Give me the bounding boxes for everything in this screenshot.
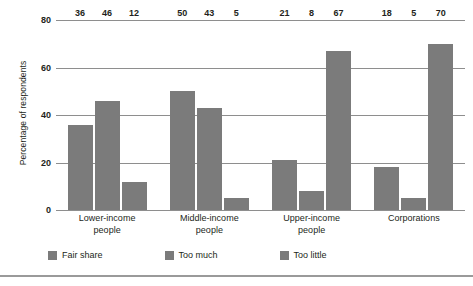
bar-value: 8 (309, 9, 314, 18)
x-axis-label-line2: people (56, 225, 158, 237)
legend-swatch-icon (165, 251, 174, 260)
bar-fair-share[interactable] (374, 167, 399, 210)
bar-fair-share[interactable] (272, 160, 297, 210)
legend-swatch-icon (280, 251, 289, 260)
x-axis-label-line2: people (158, 225, 260, 237)
bar-slot: 8 (299, 20, 324, 210)
bar-slot: 46 (95, 20, 120, 210)
bar-group-upper-income-people: 21 8 67 (261, 20, 363, 210)
y-tick-label-60: 60 (41, 63, 51, 73)
x-axis-label-line1: Lower-income (56, 213, 158, 225)
x-axis-label-corporations: Corporations (363, 213, 465, 236)
legend-item-too-little[interactable]: Too little (280, 250, 327, 260)
bar-slot: 67 (326, 20, 351, 210)
y-tick-label-0: 0 (46, 205, 51, 215)
legend-label: Fair share (62, 250, 103, 260)
y-tick-label-80: 80 (41, 15, 51, 25)
x-axis-label-upper-income-people: Upper-income people (261, 213, 363, 236)
bar-fair-share[interactable] (170, 91, 195, 210)
legend-label: Too little (294, 250, 327, 260)
bar-too-little[interactable] (326, 51, 351, 210)
x-axis-label-line1: Corporations (363, 213, 465, 225)
bar-too-much[interactable] (197, 108, 222, 210)
bar-slot: 43 (197, 20, 222, 210)
bar-slot: 70 (428, 20, 453, 210)
bar-value: 70 (436, 9, 446, 18)
legend-label: Too much (179, 250, 218, 260)
bar-chart: Percentage of respondents 80 60 40 20 0 … (0, 0, 473, 286)
bar-value: 12 (129, 9, 139, 18)
bar-value: 18 (382, 9, 392, 18)
x-axis-label-middle-income-people: Middle-income people (158, 213, 260, 236)
x-axis-labels: Lower-income people Middle-income people… (56, 213, 465, 236)
bar-too-little[interactable] (224, 198, 249, 210)
bar-slot: 36 (68, 20, 93, 210)
x-axis-label-line2: people (261, 225, 363, 237)
bar-too-little[interactable] (428, 44, 453, 210)
bar-too-much[interactable] (95, 101, 120, 210)
bar-groups: 36 46 12 50 (56, 20, 465, 210)
plot-area: 80 60 40 20 0 36 46 (56, 20, 465, 210)
x-axis-label-line1: Middle-income (158, 213, 260, 225)
bar-too-much[interactable] (299, 191, 324, 210)
y-tick-label-20: 20 (41, 158, 51, 168)
bar-slot: 50 (170, 20, 195, 210)
bar-group-middle-income-people: 50 43 5 (158, 20, 260, 210)
bar-slot: 12 (122, 20, 147, 210)
legend-swatch-icon (48, 251, 57, 260)
bar-value: 5 (411, 9, 416, 18)
bar-value: 21 (280, 9, 290, 18)
legend-item-too-much[interactable]: Too much (165, 250, 218, 260)
y-axis-title: Percentage of respondents (18, 28, 28, 198)
bar-value: 36 (75, 9, 85, 18)
bar-slot: 21 (272, 20, 297, 210)
bar-value: 5 (234, 9, 239, 18)
x-axis-label-lower-income-people: Lower-income people (56, 213, 158, 236)
bar-slot: 5 (401, 20, 426, 210)
chart-legend: Fair share Too much Too little (48, 250, 327, 260)
bottom-divider (0, 275, 473, 277)
bar-too-little[interactable] (122, 182, 147, 211)
bar-fair-share[interactable] (68, 125, 93, 211)
axis-baseline-0: 0 (56, 210, 465, 211)
bar-slot: 18 (374, 20, 399, 210)
legend-item-fair-share[interactable]: Fair share (48, 250, 103, 260)
bar-slot: 5 (224, 20, 249, 210)
y-tick-label-40: 40 (41, 110, 51, 120)
bar-value: 43 (204, 9, 214, 18)
bar-value: 50 (177, 9, 187, 18)
bar-group-corporations: 18 5 70 (363, 20, 465, 210)
bar-value: 67 (334, 9, 344, 18)
bar-group-lower-income-people: 36 46 12 (56, 20, 158, 210)
bar-value: 46 (102, 9, 112, 18)
bar-too-much[interactable] (401, 198, 426, 210)
x-axis-label-line1: Upper-income (261, 213, 363, 225)
